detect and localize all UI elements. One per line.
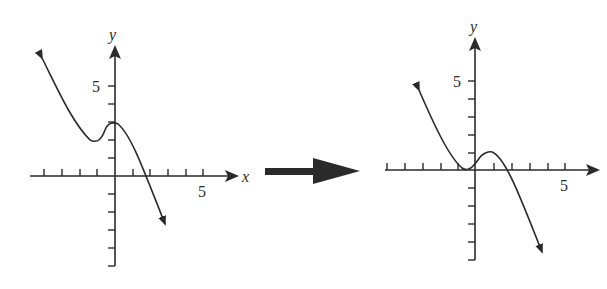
right-x-ticks <box>387 163 565 170</box>
right-curve <box>419 90 542 252</box>
right-y-axis-label: y <box>468 18 478 36</box>
right-y-tick-label: 5 <box>453 73 461 90</box>
transformation-figure: x y 5 5 y 5 5 <box>0 0 607 289</box>
right-graph: y 5 5 <box>385 18 597 260</box>
right-x-tick-label: 5 <box>560 177 568 194</box>
left-x-axis-label: x <box>241 168 249 185</box>
left-y-tick-label: 5 <box>92 78 100 95</box>
left-x-ticks <box>44 169 203 176</box>
left-x-tick-label: 5 <box>198 183 206 200</box>
transition-arrow <box>265 158 360 184</box>
left-curve <box>42 58 165 224</box>
left-graph: x y 5 5 <box>30 26 249 266</box>
left-y-axis-label: y <box>107 26 117 44</box>
